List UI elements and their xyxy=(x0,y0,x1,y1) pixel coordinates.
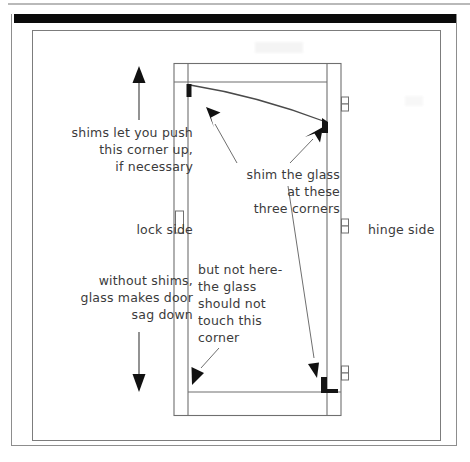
shim-bottom-right xyxy=(321,377,338,393)
pointer-top-left-shim xyxy=(206,107,237,163)
scanned-page: shims let you push this corner up, if ne… xyxy=(0,0,470,462)
note-shim-the-glass: shim the glass at these three corners xyxy=(206,166,340,217)
note-shims-let-you-push: shims let you push this corner up, if ne… xyxy=(30,124,193,175)
hinge-bottom xyxy=(342,366,349,380)
shim-group xyxy=(187,84,339,393)
hinge-middle xyxy=(342,219,349,233)
hinge-top xyxy=(342,97,349,111)
shim-top-left xyxy=(187,84,192,97)
up-arrow xyxy=(133,66,146,120)
note-without-shims: without shims, glass makes door sag down xyxy=(22,272,193,323)
label-lock-side: lock side xyxy=(40,221,193,238)
pointer-bottom-left-no-shim xyxy=(192,348,220,385)
door-frame-outline xyxy=(174,64,341,416)
door-frame-outer xyxy=(174,64,341,416)
hinge-group xyxy=(342,97,349,380)
note-but-not-here: but not here- the glass should not touch… xyxy=(198,261,328,346)
label-hinge-side: hinge side xyxy=(368,221,448,238)
pointer-top-right-shim xyxy=(290,127,323,163)
down-arrow xyxy=(133,332,146,392)
